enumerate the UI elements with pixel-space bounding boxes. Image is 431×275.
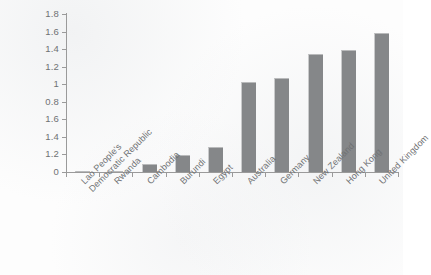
x-tick-mark [132,173,133,177]
x-tick-mark [332,173,333,177]
y-tick-label: 1.4 [33,131,59,142]
x-tick-mark [199,173,200,177]
bar [241,82,256,172]
y-tick-label: 1.2 [33,148,59,159]
x-tick-mark [232,173,233,177]
bar [274,78,289,172]
x-tick-mark [265,173,266,177]
bar [308,54,323,173]
x-tick-mark [298,173,299,177]
y-tick-label: 1 [33,78,59,89]
x-tick-mark [166,173,167,177]
y-tick-label: 1.6 [33,26,59,37]
x-tick-mark [365,173,366,177]
y-tick-label: 1.2 [33,61,59,72]
x-tick-mark [66,173,67,177]
x-tick-mark [398,173,399,177]
y-tick-label: 1.6 [33,113,59,124]
y-tick-label: 0 [33,166,59,177]
y-tick-label: 1.4 [33,43,59,54]
y-tick-label: 0.8 [33,96,59,107]
y-tick-label: 1.8 [33,8,59,19]
